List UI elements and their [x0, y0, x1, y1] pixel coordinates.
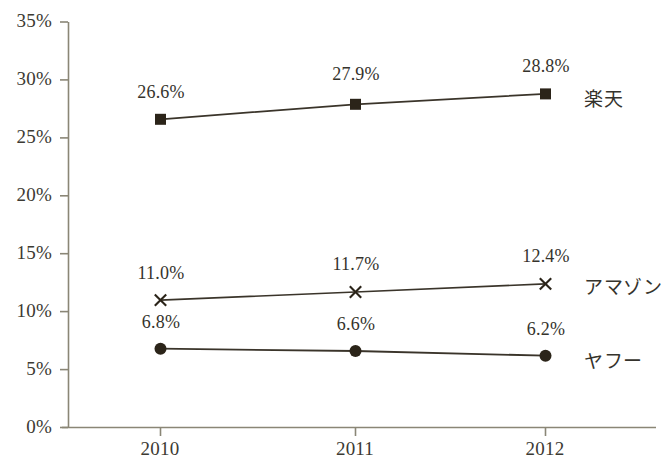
series-yahoo-marker	[540, 350, 552, 362]
y-tick-label-35: 35%	[0, 10, 52, 32]
x-tick-label-2010: 2010	[110, 438, 210, 460]
data-label-amazon-2010: 11.0%	[111, 263, 211, 284]
y-tick-label-5: 5%	[0, 358, 52, 380]
data-label-yahoo-2011: 6.6%	[306, 314, 406, 335]
series-rakuten-marker	[155, 114, 166, 125]
y-tick-label-15: 15%	[0, 242, 52, 264]
legend-label-rakuten: 楽天	[584, 84, 623, 111]
x-axis-ticks	[161, 428, 546, 437]
data-label-rakuten-2011: 27.9%	[306, 64, 406, 85]
y-tick-label-30: 30%	[0, 68, 52, 90]
data-label-yahoo-2012: 6.2%	[496, 319, 596, 340]
series-rakuten	[155, 88, 551, 124]
y-tick-label-0: 0%	[0, 416, 52, 438]
data-label-amazon-2012: 12.4%	[496, 246, 596, 267]
legend-label-yahoo: ヤフー	[584, 346, 643, 373]
y-tick-label-20: 20%	[0, 184, 52, 206]
series-yahoo-marker	[350, 345, 362, 357]
data-label-amazon-2011: 11.7%	[306, 254, 406, 275]
data-label-rakuten-2012: 28.8%	[496, 56, 596, 77]
series-amazon-line	[161, 284, 546, 300]
series-amazon	[155, 278, 551, 306]
series-rakuten-marker	[350, 99, 361, 110]
series-yahoo-marker	[155, 343, 167, 355]
data-label-yahoo-2010: 6.8%	[111, 312, 211, 333]
x-tick-label-2012: 2012	[495, 438, 595, 460]
y-tick-label-10: 10%	[0, 300, 52, 322]
y-tick-label-25: 25%	[0, 126, 52, 148]
legend-label-amazon: アマゾン	[584, 272, 661, 299]
x-tick-label-2011: 2011	[305, 438, 405, 460]
data-label-rakuten-2010: 26.6%	[111, 82, 211, 103]
line-chart: 35% 30% 25% 20% 15% 10% 5% 0% 2010 2011 …	[0, 0, 661, 464]
y-axis-ticks	[60, 22, 68, 428]
series-rakuten-marker	[540, 88, 551, 99]
series-yahoo	[155, 343, 552, 362]
